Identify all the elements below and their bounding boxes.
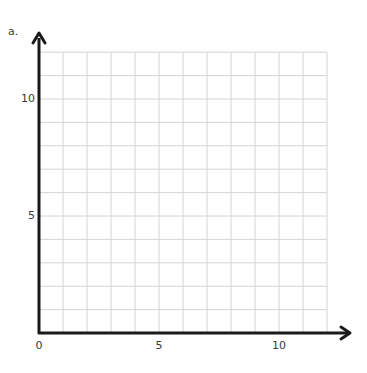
x-tick-label: 5: [156, 340, 163, 351]
coordinate-grid: [0, 0, 367, 373]
grid-lines: [39, 52, 327, 333]
axes: [33, 33, 350, 339]
x-tick-label: 10: [272, 340, 286, 351]
y-tick-label: 10: [21, 93, 35, 104]
x-tick-label: 0: [36, 340, 43, 351]
y-tick-label: 5: [28, 210, 35, 221]
